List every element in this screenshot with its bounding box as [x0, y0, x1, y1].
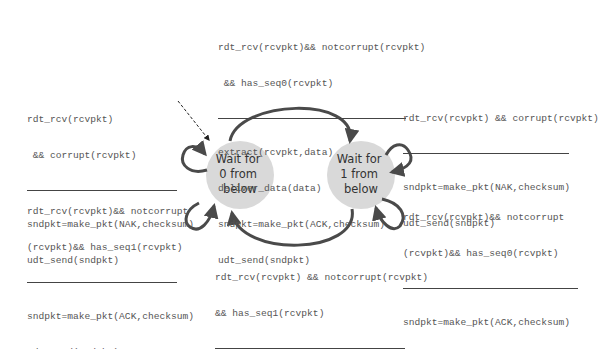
event-line: rdt_rcv(rcvpkt)&& notcorrupt	[27, 206, 177, 218]
action-line: sndpkt=make_pkt(ACK,checksum)	[218, 219, 406, 231]
event-line: rdt_rcv(rcvpkt)&& notcorrupt(rcvpkt)	[218, 42, 406, 54]
event-action-divider	[218, 118, 406, 119]
action-line: sndpkt=make_pkt(ACK,checksum)	[403, 317, 578, 329]
event-line: (rcvpkt)&& has_seq1(rcvpkt)	[27, 242, 177, 254]
event-line: && has_seq1(rcvpkt)	[215, 308, 405, 320]
event-line: rdt_rcv(rcvpkt)	[27, 114, 177, 126]
initial-state-arrow	[178, 101, 209, 140]
event-line: && has_seq0(rcvpkt)	[218, 78, 406, 90]
event-action-divider	[27, 282, 177, 283]
event-action-divider	[403, 153, 569, 154]
event-line: && corrupt(rcvpkt)	[27, 150, 177, 162]
event-action-divider	[403, 288, 578, 289]
action-line: extract(rcvpkt,data)	[218, 147, 406, 159]
event-line: rdt_rcv(rcvpkt) && corrupt(rcvpkt)	[403, 113, 569, 125]
fsm-diagram: Wait for 0 from below Wait for 1 from be…	[0, 0, 610, 349]
event-line: rdt_rcv(rcvpkt)&& notcorrupt	[403, 212, 578, 224]
event-line: (rcvpkt)&& has_seq0(rcvpkt)	[403, 248, 578, 260]
action-line: sndpkt=make_pkt(ACK,checksum)	[27, 311, 177, 323]
transition-label-left-bottom: rdt_rcv(rcvpkt)&& notcorrupt (rcvpkt)&& …	[27, 182, 177, 349]
transition-label-right-bottom: rdt_rcv(rcvpkt)&& notcorrupt (rcvpkt)&& …	[403, 188, 578, 349]
self-loop-wait0-top	[182, 147, 207, 172]
event-line: rdt_rcv(rcvpkt) && notcorrupt(rcvpkt)	[215, 272, 405, 284]
transition-label-bottom: rdt_rcv(rcvpkt) && notcorrupt(rcvpkt) &&…	[215, 248, 405, 349]
action-line: deliver_data(data)	[218, 183, 406, 195]
